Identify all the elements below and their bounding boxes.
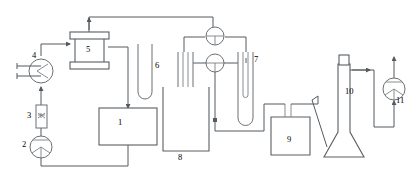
process-flow-diagram: 1 2 3 4 5 6 7 8 9 10 11 <box>0 0 415 182</box>
heat-exchanger[interactable] <box>17 59 53 83</box>
label-component-4: 4 <box>32 50 36 60</box>
gas-washing-bottle[interactable] <box>264 96 318 155</box>
cooling-bath-beaker[interactable] <box>163 87 209 151</box>
top-three-way-valve[interactable] <box>206 27 224 45</box>
pipe-tank1-to-pump2 <box>41 145 128 166</box>
feed-pump[interactable] <box>30 136 52 158</box>
gas-bubbler-tube[interactable] <box>238 52 253 125</box>
label-component-11: 11 <box>396 95 404 105</box>
label-component-6: 6 <box>155 60 159 70</box>
label-component-7: 7 <box>254 54 258 64</box>
pipe-column10-to-pump11 <box>350 70 394 127</box>
mid-three-way-valve[interactable] <box>206 54 224 72</box>
rotameter-flowmeter[interactable] <box>36 105 47 128</box>
u-tube[interactable] <box>138 44 152 99</box>
label-component-5: 5 <box>86 44 90 54</box>
pipe-hx4-to-reactor5 <box>41 44 70 56</box>
label-component-8: 8 <box>178 152 182 162</box>
pipe-reactor5-vent-top <box>89 17 213 32</box>
pipe-reactor5-to-tank1 <box>108 47 128 108</box>
label-component-3: 3 <box>27 110 31 120</box>
rectangular-tank[interactable] <box>99 108 157 145</box>
label-component-1: 1 <box>118 117 122 127</box>
label-component-10: 10 <box>345 86 354 96</box>
label-component-9: 9 <box>287 134 291 144</box>
label-component-2: 2 <box>22 139 26 149</box>
